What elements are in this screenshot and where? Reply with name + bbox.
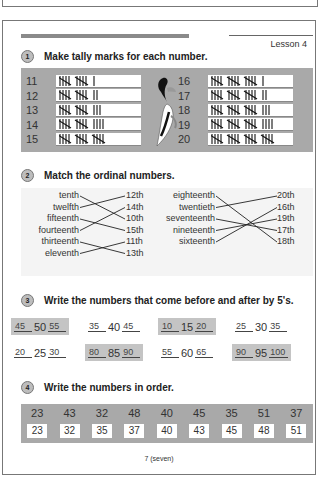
ordinal-word: thirteenth <box>41 236 79 246</box>
tally-row: 15 <box>21 132 141 147</box>
tally-row: 11 <box>21 74 141 89</box>
after-blank[interactable]: 20 <box>195 321 213 332</box>
before-blank[interactable]: 55 <box>161 347 179 358</box>
tally-marks-icon <box>211 133 282 145</box>
after-blank[interactable]: 90 <box>122 347 140 358</box>
given-number: 48 <box>118 407 150 419</box>
tally-number: 13 <box>21 104 56 116</box>
count-by-fives-group: 556065 <box>158 344 216 361</box>
count-by-fives-group: 455055 <box>11 318 69 335</box>
before-blank[interactable]: 35 <box>88 321 106 332</box>
matching-panel: tenthtwelfthfifteenthfourteenththirteent… <box>21 188 313 276</box>
ordinal-number: 10th <box>126 213 144 223</box>
ordinal-word: eighteenth <box>173 190 215 200</box>
tally-row: 12 <box>21 89 141 104</box>
before-blank[interactable]: 25 <box>235 321 253 332</box>
tally-answer-box[interactable] <box>56 104 141 117</box>
after-blank[interactable]: 35 <box>269 321 287 332</box>
given-number: 95 <box>255 347 267 359</box>
ordering-panel: 234332484045355137 233235374043454851 <box>21 404 313 443</box>
tally-marks-icon <box>211 75 268 87</box>
tally-answer-box[interactable] <box>56 118 141 131</box>
tally-number: 14 <box>21 119 56 131</box>
tally-row: 13 <box>21 103 141 118</box>
tally-row: 17 <box>173 89 293 104</box>
tally-answer-box[interactable] <box>56 75 141 88</box>
given-number: 50 <box>34 321 46 333</box>
answer-cell: 23 <box>21 424 53 438</box>
tally-panel: 1112131415 1617181920 <box>21 68 313 152</box>
answer-box[interactable]: 32 <box>60 424 80 438</box>
section-number-badge: 1 <box>21 50 34 63</box>
before-blank[interactable]: 45 <box>14 321 32 332</box>
tally-marks-icon <box>59 104 105 116</box>
tally-answer-box[interactable] <box>208 133 293 146</box>
section-3-title: 3 Write the numbers that come before and… <box>21 294 293 307</box>
before-blank[interactable]: 20 <box>14 347 32 358</box>
answer-cell: 43 <box>183 424 215 438</box>
count-by-fives-group: 808590 <box>85 344 143 361</box>
answer-boxes-row: 233235374043454851 <box>21 424 313 438</box>
answer-cell: 37 <box>118 424 150 438</box>
after-blank[interactable]: 65 <box>195 347 213 358</box>
section-1-title: 1 Make tally marks for each number. <box>21 50 207 63</box>
section-2-title: 2 Match the ordinal numbers. <box>21 169 175 182</box>
given-number: 40 <box>151 407 183 419</box>
ordinal-word: twentieth <box>179 202 215 212</box>
answer-box[interactable]: 43 <box>189 424 209 438</box>
tally-answer-box[interactable] <box>208 104 293 117</box>
tally-column-right: 1617181920 <box>173 74 293 147</box>
tally-row: 16 <box>173 74 293 89</box>
answer-box[interactable]: 45 <box>222 424 242 438</box>
answer-box[interactable]: 23 <box>27 424 47 438</box>
after-blank[interactable]: 55 <box>48 321 66 332</box>
section-1-instruction: Make tally marks for each number. <box>44 51 207 62</box>
answer-box[interactable]: 51 <box>286 424 306 438</box>
given-number: 23 <box>21 407 53 419</box>
tally-answer-box[interactable] <box>208 118 293 131</box>
tally-row: 19 <box>173 118 293 133</box>
before-blank[interactable]: 90 <box>235 347 253 358</box>
section-number-badge: 2 <box>21 169 34 182</box>
section-4-title: 4 Write the numbers in order. <box>21 381 174 394</box>
given-number: 37 <box>280 407 312 419</box>
answer-box[interactable]: 40 <box>157 424 177 438</box>
tally-number: 11 <box>21 75 56 87</box>
answer-box[interactable]: 48 <box>254 424 274 438</box>
count-by-fives-group: 101520 <box>158 318 216 335</box>
tally-answer-box[interactable] <box>56 89 141 102</box>
given-number: 25 <box>34 347 46 359</box>
tally-marks-icon <box>59 133 113 145</box>
section-number-badge: 4 <box>21 381 34 394</box>
section-2-instruction: Match the ordinal numbers. <box>44 170 175 181</box>
tally-column-left: 1112131415 <box>21 74 141 147</box>
before-blank[interactable]: 10 <box>161 321 179 332</box>
count-by-fives-group: 354045 <box>85 318 143 335</box>
ordinal-word: nineteenth <box>173 225 215 235</box>
tally-answer-box[interactable] <box>208 75 293 88</box>
ordinal-number: 15th <box>126 225 144 235</box>
tally-marks-icon <box>59 89 102 101</box>
given-number: 35 <box>215 407 247 419</box>
ordinal-number: 20th <box>277 190 295 200</box>
tally-answer-box[interactable] <box>208 89 293 102</box>
given-number: 32 <box>86 407 118 419</box>
section-3-instruction: Write the numbers that come before and a… <box>44 295 293 306</box>
answer-cell: 35 <box>86 424 118 438</box>
after-blank[interactable]: 100 <box>269 347 288 358</box>
ordinal-word: fifteenth <box>47 213 79 223</box>
tally-row: 20 <box>173 132 293 147</box>
tally-number: 19 <box>173 119 208 131</box>
after-blank[interactable]: 45 <box>122 321 140 332</box>
answer-box[interactable]: 37 <box>124 424 144 438</box>
after-blank[interactable]: 30 <box>48 347 66 358</box>
tally-answer-box[interactable] <box>56 133 141 146</box>
ordinal-number: 17th <box>277 225 295 235</box>
answer-cell: 48 <box>248 424 280 438</box>
before-blank[interactable]: 80 <box>88 347 106 358</box>
answer-box[interactable]: 35 <box>92 424 112 438</box>
ordinal-word: eleventh <box>45 248 79 258</box>
tally-number: 16 <box>173 75 208 87</box>
ordinal-word: twelfth <box>53 202 79 212</box>
ordinal-word: sixteenth <box>179 236 215 246</box>
